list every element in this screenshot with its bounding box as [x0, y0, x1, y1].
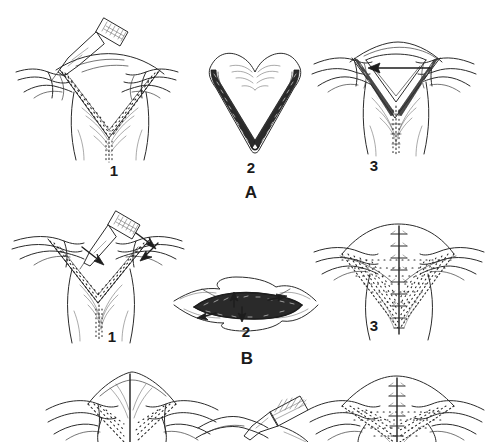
scalpel-icon — [244, 396, 308, 440]
panel-b3 — [312, 212, 486, 344]
left-retracting-fingers — [16, 69, 72, 100]
upper-border — [88, 372, 176, 404]
panel-c2 — [196, 392, 326, 442]
suture-line — [389, 378, 405, 442]
v-incision-edge-lines — [60, 70, 160, 138]
suture-line — [391, 226, 407, 334]
panel-label-b3: 3 — [362, 318, 386, 333]
scalpel-icon — [80, 211, 140, 269]
left-retracting-fingers — [308, 401, 380, 440]
upper-border — [342, 224, 454, 254]
panel-a2 — [202, 44, 308, 162]
right-retracting-fingers — [412, 401, 484, 440]
left-retracting-fingers — [312, 58, 372, 92]
inner-v-outline — [366, 54, 426, 102]
v-incision-stipple-left — [62, 72, 111, 136]
panel-label-a1: 1 — [102, 163, 126, 178]
panel-a3 — [308, 30, 480, 172]
advancement-arrow-icon — [368, 63, 430, 73]
panel-label-b2: 2 — [234, 324, 258, 339]
excised-v-specimen — [209, 53, 301, 153]
panel-b1 — [10, 205, 186, 355]
left-retracting-fingers — [46, 401, 118, 440]
panel-c1 — [40, 370, 220, 442]
right-retracting-fingers — [420, 248, 484, 281]
panel-label-a3: 3 — [362, 158, 386, 173]
panel-c3 — [308, 372, 484, 442]
v-margin-stipple — [88, 404, 176, 442]
panel-label-b1: 1 — [100, 329, 124, 344]
panel-label-a2: 2 — [239, 160, 263, 175]
midline-stipple-tail — [106, 138, 112, 162]
wide-v-incision — [48, 239, 150, 303]
section-label-b: B — [234, 350, 260, 367]
scalpel-icon — [52, 18, 128, 80]
stippled-wound-field — [342, 254, 454, 328]
panel-a1 — [12, 10, 182, 170]
left-retracting-fingers — [12, 237, 84, 268]
v-incision-stipple-right — [109, 72, 158, 136]
upper-lip-border — [350, 42, 442, 62]
right-retracting-fingers — [122, 69, 178, 100]
section-label-a: A — [238, 184, 264, 201]
surgical-technique-figure: 1 — [0, 0, 488, 442]
upper-border — [342, 376, 454, 406]
